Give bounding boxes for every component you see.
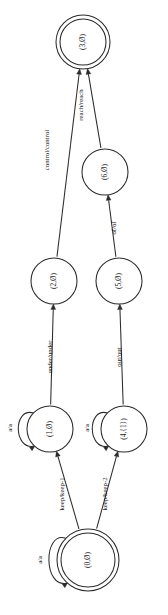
edge-label-n0-to-n4: keep/keep-2 [101, 477, 108, 511]
edge-label-n6-to-n3: reach/reach [77, 89, 84, 121]
arrow-head [51, 304, 56, 310]
node-label-n1: (1,Ø) [45, 421, 54, 437]
arrow-head [56, 451, 61, 457]
edge-label-n2-to-n3: control/control [43, 130, 50, 171]
diagram-canvas: control/controlreach/reachof/ofunder/und… [0, 0, 168, 615]
nodes-layer [27, 15, 147, 591]
edge-label-n1-to-n2: under/under [46, 340, 53, 374]
arrow-head [86, 69, 91, 75]
edge-n6-to-n3 [86, 69, 101, 148]
node-label-n4: (4,{1}) [119, 418, 128, 440]
node-label-n0: (0,Ø) [83, 552, 92, 568]
arrow-head [106, 195, 111, 201]
edge-label-n4-to-n5: out/out [115, 347, 122, 366]
self-loop-label-n0: a/a [36, 556, 43, 564]
state-machine-diagram: control/controlreach/reachof/ofunder/und… [0, 0, 168, 615]
node-label-n5: (5,Ø) [114, 273, 123, 289]
arrow-head [77, 69, 82, 75]
node-label-n6: (6,Ø) [100, 164, 109, 180]
node-label-n2: (2,Ø) [49, 273, 58, 289]
node-label-n3: (3,Ø) [78, 34, 87, 50]
arrow-head [114, 451, 119, 457]
arrow-head [118, 304, 123, 310]
self-loop-label-n4: a/a [83, 424, 90, 432]
edge-label-n0-to-n1: keep/keep-1 [58, 477, 65, 510]
edge-label-n5-to-n6: of/of [110, 221, 117, 235]
self-loop-label-n1: a/a [6, 424, 13, 432]
